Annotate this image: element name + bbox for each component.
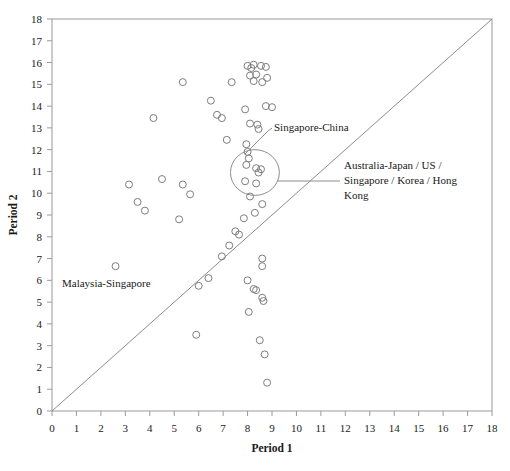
data-point <box>226 242 233 249</box>
y-tick-label: 11 <box>31 165 42 177</box>
annotation-singapore-china: Singapore-China <box>274 121 349 133</box>
data-point <box>176 216 183 223</box>
x-tick-label: 8 <box>245 422 251 434</box>
x-tick-label: 7 <box>220 422 226 434</box>
y-tick-label: 13 <box>31 122 43 134</box>
y-axis-title: Period 2 <box>7 194 19 235</box>
data-point <box>214 111 221 118</box>
data-point <box>250 78 257 85</box>
annotation-australia-group-line2: Singapore / Korea / Hong <box>344 174 458 186</box>
data-point <box>247 120 254 127</box>
y-tick-label: 10 <box>31 187 43 199</box>
data-point <box>244 277 251 284</box>
x-axis-ticks <box>52 411 492 416</box>
data-point <box>254 121 261 128</box>
y-tick-label: 3 <box>37 340 43 352</box>
data-point <box>187 191 194 198</box>
data-point <box>253 180 260 187</box>
x-tick-label: 1 <box>74 422 80 434</box>
x-tick-label: 18 <box>487 422 499 434</box>
data-point <box>259 255 266 262</box>
data-point <box>141 207 148 214</box>
x-tick-label: 4 <box>147 422 153 434</box>
x-tick-label: 17 <box>462 422 474 434</box>
annotation-australia-group-line3: Kong <box>344 189 369 201</box>
annotation-malaysia-singapore: Malaysia-Singapore <box>62 277 151 289</box>
x-tick-label: 9 <box>269 422 275 434</box>
chart-canvas: 0123456789101112131415161718 01234567891… <box>0 0 510 471</box>
data-point <box>243 161 250 168</box>
x-tick-label: 14 <box>389 422 401 434</box>
data-point <box>259 201 266 208</box>
data-point <box>247 193 254 200</box>
data-point <box>259 263 266 270</box>
data-point <box>159 176 166 183</box>
x-tick-label: 6 <box>196 422 202 434</box>
data-point <box>256 337 263 344</box>
y-tick-label: 1 <box>37 383 43 395</box>
x-tick-label: 12 <box>340 422 351 434</box>
x-axis-tick-labels: 0123456789101112131415161718 <box>49 422 498 434</box>
data-point <box>150 115 157 122</box>
x-tick-label: 3 <box>123 422 129 434</box>
y-tick-label: 8 <box>37 231 43 243</box>
data-point <box>207 97 214 104</box>
y-tick-label: 14 <box>31 100 43 112</box>
y-axis-tick-labels: 0123456789101112131415161718 <box>31 13 43 417</box>
data-point <box>223 136 230 143</box>
x-tick-label: 16 <box>438 422 450 434</box>
y-tick-label: 6 <box>37 274 43 286</box>
data-point <box>193 331 200 338</box>
identity-reference-line <box>52 19 492 411</box>
y-tick-label: 16 <box>31 57 43 69</box>
x-axis-title: Period 1 <box>251 442 292 454</box>
data-point <box>264 379 271 386</box>
data-point <box>262 63 269 70</box>
y-tick-label: 2 <box>37 361 43 373</box>
x-tick-label: 15 <box>413 422 425 434</box>
callout-leader-lines <box>245 128 340 181</box>
y-tick-label: 9 <box>37 209 43 221</box>
data-point <box>112 263 119 270</box>
x-tick-label: 0 <box>49 422 55 434</box>
data-point <box>242 178 249 185</box>
data-point <box>179 181 186 188</box>
data-point <box>134 198 141 205</box>
y-tick-label: 15 <box>31 78 43 90</box>
data-point-group <box>112 61 275 386</box>
data-point <box>242 106 249 113</box>
x-tick-label: 5 <box>171 422 177 434</box>
x-tick-label: 13 <box>364 422 376 434</box>
data-point <box>126 181 133 188</box>
data-point <box>179 79 186 86</box>
data-point <box>195 282 202 289</box>
x-tick-label: 10 <box>291 422 303 434</box>
data-point <box>253 287 260 294</box>
x-tick-label: 11 <box>316 422 327 434</box>
data-point <box>205 275 212 282</box>
data-point <box>218 253 225 260</box>
data-point <box>228 79 235 86</box>
y-axis-ticks <box>47 19 52 411</box>
scatter-chart: 0123456789101112131415161718 01234567891… <box>0 0 510 471</box>
data-point <box>251 209 258 216</box>
data-point <box>261 351 268 358</box>
data-point <box>255 125 262 132</box>
data-point <box>245 308 252 315</box>
data-point <box>240 215 247 222</box>
y-tick-label: 0 <box>37 405 43 417</box>
data-point <box>259 79 266 86</box>
y-tick-label: 4 <box>37 318 43 330</box>
data-point <box>218 115 225 122</box>
y-tick-label: 12 <box>31 144 42 156</box>
y-tick-label: 18 <box>31 13 43 25</box>
y-tick-label: 7 <box>37 253 43 265</box>
data-point <box>243 141 250 148</box>
data-point <box>258 62 265 69</box>
x-tick-label: 2 <box>98 422 104 434</box>
y-tick-label: 5 <box>37 296 43 308</box>
y-tick-label: 17 <box>31 35 43 47</box>
annotation-australia-group-line1: Australia-Japan / US / <box>344 159 442 171</box>
data-point <box>245 155 252 162</box>
